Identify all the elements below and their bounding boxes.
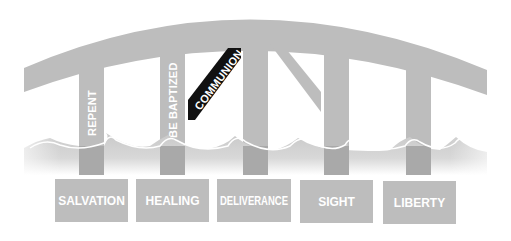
box-label-sight: SIGHT — [318, 195, 355, 209]
label-be-baptized: BE BAPTIZED — [167, 62, 179, 138]
box-label-salvation: SALVATION — [58, 194, 125, 208]
box-label-deliverance: DELIVERANCE — [220, 194, 288, 208]
box-label-liberty: LIBERTY — [394, 196, 445, 210]
bridge-diagram: REPENT BE BAPTIZED COMMUNION SALVATION H… — [0, 0, 511, 241]
pillar-diagonal — [270, 44, 321, 112]
label-communion: COMMUNION — [192, 47, 245, 112]
boxes: SALVATION HEALING DELIVERANCE SIGHT LIBE… — [55, 179, 456, 224]
label-repent: REPENT — [86, 90, 98, 136]
box-label-healing: HEALING — [146, 194, 200, 208]
